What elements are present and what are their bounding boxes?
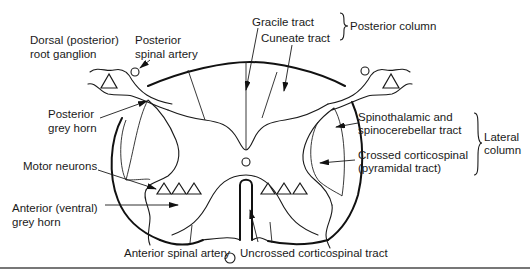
motor-neurons-left [157, 183, 201, 194]
right-dorsal-root [328, 69, 412, 110]
label-posterior-grey-horn-2: grey horn [48, 122, 97, 134]
label-anterior-grey-horn-1: Anterior (ventral) [12, 202, 98, 214]
leader-arrows [98, 28, 358, 242]
right-ganglion-triangle-icon [383, 74, 399, 88]
motor-neuron-triangle-icon [293, 183, 307, 194]
motor-neurons-right [261, 183, 307, 194]
tract-divisions [121, 62, 345, 243]
label-lateral-column-1: Lateral [484, 131, 519, 143]
anterior-left-edge [203, 238, 240, 240]
lateral-column-brace [474, 113, 482, 175]
label-motor-neurons: Motor neurons [23, 160, 97, 172]
posterior-column-brace [340, 13, 348, 40]
label-cuneate-tract: Cuneate tract [261, 32, 331, 44]
anterior-median-fissure [240, 180, 252, 240]
posterior-spinal-artery-left [131, 68, 139, 76]
motor-neuron-triangle-icon [172, 183, 186, 194]
label-dorsal-root-ganglion-2: root ganglion [30, 48, 97, 60]
label-spinothalamic-2: spinocerebellar tract [358, 124, 462, 136]
label-dorsal-root-ganglion-1: Dorsal (posterior) [30, 34, 119, 46]
motor-neuron-triangle-icon [277, 183, 291, 194]
left-dorsal-root [88, 69, 172, 110]
label-posterior-spinal-artery-1: Posterior [135, 34, 181, 46]
anterior-right-edge [252, 238, 268, 241]
spinal-cord-diagram: Dorsal (posterior) root ganglion Posteri… [0, 0, 530, 273]
motor-neuron-triangle-icon [157, 183, 171, 194]
left-ganglion-triangle-icon [101, 74, 117, 88]
label-uncrossed-corticospinal: Uncrossed corticospinal tract [240, 247, 388, 259]
label-lateral-column-2: column [484, 144, 521, 156]
spinal-cord-outline [112, 62, 363, 245]
label-anterior-grey-horn-2: grey horn [12, 216, 61, 228]
label-posterior-grey-horn-1: Posterior [48, 108, 94, 120]
central-canal [242, 158, 250, 166]
label-spinothalamic-1: Spinothalamic and [358, 111, 453, 123]
label-posterior-column: Posterior column [350, 20, 436, 32]
label-crossed-corticospinal-2: (pyramidal tract) [358, 162, 441, 174]
label-crossed-corticospinal-1: Crossed corticospinal [358, 149, 468, 161]
label-posterior-spinal-artery-2: spinal artery [135, 48, 198, 60]
label-gracile-tract: Gracile tract [252, 16, 315, 28]
motor-neuron-triangle-icon [187, 183, 201, 194]
posterior-spinal-artery-right [361, 67, 369, 75]
label-anterior-spinal-artery: Anterior spinal artery [124, 247, 230, 259]
